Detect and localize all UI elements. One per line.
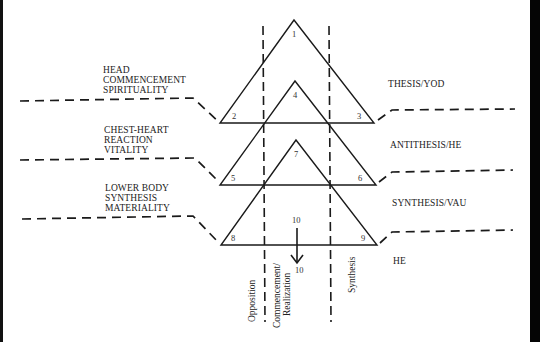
diagram-lines — [0, 0, 540, 342]
arrow-start-label: 10 — [292, 216, 301, 225]
right-dash-antithesis — [379, 170, 513, 182]
triangle-chest — [220, 81, 376, 185]
vertex-5: 5 — [231, 174, 235, 183]
label-chest-group: CHEST-HEART REACTION VITALITY — [104, 125, 169, 155]
vertex-8: 8 — [231, 234, 235, 243]
arrow-end-label: 10 — [295, 266, 304, 275]
label-lower-group: LOWER BODY SYNTHESIS MATERIALITY — [105, 183, 170, 213]
triangle-head — [220, 20, 374, 123]
label-synthesis-body: SYNTHESIS — [105, 193, 170, 203]
label-commencement-line1: Commencement/ — [272, 263, 282, 328]
label-he: HE — [393, 256, 406, 266]
label-realization: Realization — [282, 273, 292, 316]
vertex-9: 9 — [361, 234, 365, 243]
label-antithesis-he: ANTITHESIS/HE — [390, 140, 462, 150]
vertex-4: 4 — [293, 91, 297, 100]
label-synthesis-vertical: Synthesis — [347, 257, 357, 293]
label-spirituality: SPIRITUALITY — [103, 85, 186, 95]
label-commencement: COMMENCEMENT — [103, 75, 186, 85]
label-head-group: HEAD COMMENCEMENT SPIRITUALITY — [103, 65, 186, 95]
label-vitality: VITALITY — [104, 145, 169, 155]
label-reaction: REACTION — [104, 135, 169, 145]
label-thesis-yod: THESIS/YOD — [388, 79, 444, 89]
right-dash-synthesis — [380, 230, 513, 243]
left-dash-head — [20, 98, 219, 122]
synthesis-divider — [329, 26, 331, 322]
left-dash-chest — [20, 158, 219, 182]
tetragrammaton-diagram: HEAD COMMENCEMENT SPIRITUALITY CHEST-HEA… — [0, 0, 540, 342]
label-head: HEAD — [103, 65, 186, 75]
opposition-divider — [263, 26, 265, 322]
left-dash-lower — [22, 216, 219, 243]
label-materiality: MATERIALITY — [105, 203, 170, 213]
vertex-3: 3 — [357, 112, 361, 121]
label-lower-body: LOWER BODY — [105, 183, 170, 193]
right-dash-thesis — [378, 109, 515, 120]
label-opposition: Opposition — [247, 280, 257, 322]
vertex-6: 6 — [358, 174, 362, 183]
vertex-1: 1 — [292, 30, 296, 39]
vertex-7: 7 — [294, 150, 298, 159]
label-synthesis-vau: SYNTHESIS/VAU — [392, 198, 467, 208]
label-chest-heart: CHEST-HEART — [104, 125, 169, 135]
vertex-2: 2 — [232, 112, 236, 121]
